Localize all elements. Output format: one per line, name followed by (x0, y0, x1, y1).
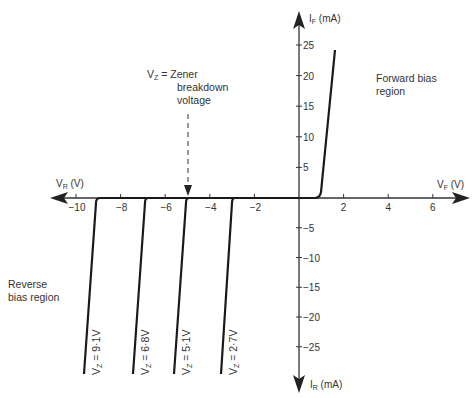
y-tick-label: 10 (303, 132, 315, 143)
zener-annotation-line1: VZ = Zener (147, 68, 198, 81)
y-tick-label: 5 (303, 162, 309, 173)
y-tick-label: −20 (303, 312, 320, 323)
x-axis-label-negative: VR (V) (56, 178, 84, 190)
x-tick-label: −10 (69, 202, 86, 213)
curve-label-5-1v: VZ = 5·1V (180, 330, 193, 375)
reverse-bias-region-label-line2: bias region (8, 291, 60, 303)
curve-labels: VZ = 9·1V VZ = 6·8V VZ = 5·1V VZ = 2·7V (90, 330, 240, 375)
reverse-bias-region-label-line1: Reverse (8, 278, 47, 290)
y-axis-ticks: 510152025−5−10−15−20−25 (296, 40, 320, 353)
y-tick-label: −10 (303, 253, 320, 264)
curve-label-2-7v: VZ = 2·7V (227, 330, 240, 375)
y-tick-label: 25 (303, 40, 315, 51)
x-tick-label: 2 (341, 202, 347, 213)
x-tick-label: −6 (160, 202, 172, 213)
x-axis: −10−8−6−4−2246 (50, 192, 470, 213)
zener-diode-characteristic-chart: −10−8−6−4−2246 510152025−5−10−15−20−25 V… (0, 0, 474, 398)
curve-label-6-8v: VZ = 6·8V (139, 330, 152, 375)
forward-bias-region-label-line1: Forward bias (376, 72, 437, 84)
x-tick-label: 4 (385, 202, 391, 213)
y-tick-label: −15 (303, 282, 320, 293)
x-axis-label-positive: VF (V) (437, 179, 464, 191)
y-axis-label-negative: IR (mA) (310, 379, 342, 391)
y-tick-label: 15 (303, 101, 315, 112)
y-tick-label: −25 (303, 342, 320, 353)
zener-annotation-arrow-icon (184, 185, 192, 196)
y-tick-label: −5 (303, 223, 315, 234)
x-axis-ticks: −10−8−6−4−2246 (69, 194, 437, 213)
y-axis: 510152025−5−10−15−20−25 (293, 11, 320, 393)
y-tick-label: 20 (303, 71, 315, 82)
zener-breakdown-annotation: VZ = Zener breakdown voltage (147, 68, 229, 196)
zener-annotation-line3: voltage (177, 94, 211, 106)
x-tick-label: −2 (250, 202, 262, 213)
x-tick-label: 6 (430, 202, 436, 213)
curve-label-9-1v: VZ = 9·1V (90, 330, 103, 375)
forward-bias-region-label-line2: region (376, 85, 405, 97)
x-tick-label: −4 (205, 202, 217, 213)
y-axis-label-positive: IF (mA) (309, 13, 341, 25)
zener-annotation-line2: breakdown (177, 81, 229, 93)
x-tick-label: −8 (116, 202, 128, 213)
